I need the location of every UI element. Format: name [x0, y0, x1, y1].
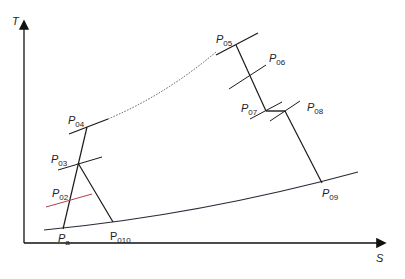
y-axis-label: T [12, 15, 20, 27]
label-p06: P06 [269, 52, 286, 67]
expansion-line-2 [285, 111, 322, 183]
ambient-pressure-curve [44, 172, 358, 230]
x-axis-label: S [376, 252, 384, 264]
label-p03: P03 [51, 153, 68, 168]
label-p02: P02 [52, 187, 69, 202]
label-p05: P05 [216, 33, 233, 48]
heat-addition-curve [108, 52, 216, 119]
label-p07: P07 [241, 102, 258, 117]
ts-diagram: T S Pa P010 P02 P03 P04 P05 P06 P07 P08 … [0, 0, 405, 279]
label-pa: Pa [58, 232, 70, 247]
label-p08: P08 [307, 101, 324, 116]
label-p04: P04 [68, 114, 85, 129]
compression-line [63, 127, 87, 229]
bypass-line [78, 163, 113, 222]
label-p09: P09 [322, 187, 339, 202]
isobar-p06 [229, 65, 266, 89]
